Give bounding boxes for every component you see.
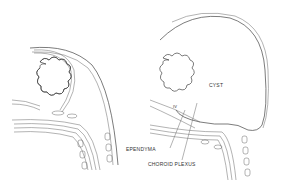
ependyma-pointer: [170, 110, 185, 148]
fourth-ventricle-label: IV: [173, 104, 177, 109]
ependyma-label: EPENDYMA: [126, 146, 156, 152]
cyst-label: CYST: [209, 82, 223, 88]
right-panel-cyst: [150, 13, 268, 180]
cerebellum-right: [160, 53, 195, 91]
left-panel-normal: [12, 47, 118, 170]
choroid-plexus-label: CHOROID PLEXUS: [148, 161, 196, 167]
diagram-canvas: [0, 0, 281, 189]
cyst-outline: [160, 16, 266, 130]
